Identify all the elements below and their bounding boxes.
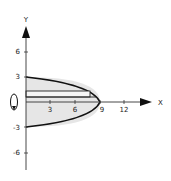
rotation-arrow-icon	[11, 94, 18, 110]
y-axis-label: Y	[23, 16, 29, 24]
y-tick-neg6: -6	[13, 149, 21, 157]
horizontal-strip	[26, 91, 90, 97]
x-tick-12: 12	[120, 106, 129, 114]
y-axis-arrow-icon	[22, 26, 30, 38]
y-tick-3: 3	[16, 73, 20, 81]
diagram-canvas: 3 6 9 12 6 3 -3 -6 X Y	[0, 0, 171, 181]
x-tick-3: 3	[48, 106, 52, 114]
x-tick-6: 6	[73, 106, 78, 114]
x-axis-arrow-icon	[140, 98, 152, 106]
parabola-diagram: 3 6 9 12 6 3 -3 -6 X Y	[0, 0, 171, 181]
y-tick-neg3: -3	[13, 124, 20, 132]
y-tick-6: 6	[16, 48, 21, 56]
x-tick-9: 9	[100, 106, 104, 114]
x-axis-label: X	[158, 99, 163, 107]
